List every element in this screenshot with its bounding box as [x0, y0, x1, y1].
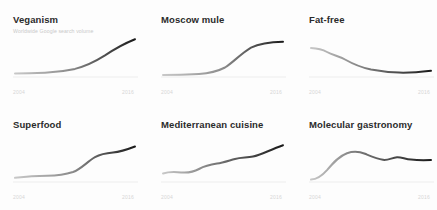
- chart-panel-molecular-gastronomy: Molecular gastronomy 2004 2016: [296, 105, 437, 210]
- axis-tick-end: 2016: [122, 193, 134, 201]
- axis-tick-start: 2004: [309, 88, 321, 96]
- panel-subtitle: Worldwide Google search volume: [13, 28, 138, 35]
- sparkline-mediterranean-cuisine: [161, 141, 286, 193]
- chart-panel-fat-free: Fat-free 2004 2016: [296, 0, 437, 105]
- axis-tick-end: 2016: [418, 193, 430, 201]
- small-multiples-grid: Veganism Worldwide Google search volume …: [0, 0, 437, 209]
- axis-tick-start: 2004: [309, 193, 321, 201]
- panel-title: Fat-free: [309, 14, 434, 25]
- chart-panel-superfood: Superfood 2004 2016: [0, 105, 148, 210]
- panel-title: Moscow mule: [161, 14, 286, 25]
- axis-tick-start: 2004: [161, 88, 173, 96]
- sparkline-fat-free: [309, 36, 434, 88]
- axis-labels: 2004 2016: [309, 88, 434, 97]
- axis-tick-end: 2016: [418, 88, 430, 96]
- axis-labels: 2004 2016: [13, 88, 138, 97]
- trend-line: [311, 151, 431, 179]
- axis-tick-start: 2004: [161, 193, 173, 201]
- trend-line: [163, 42, 283, 75]
- axis-tick-end: 2016: [270, 193, 282, 201]
- axis-labels: 2004 2016: [13, 193, 138, 202]
- trend-line: [163, 145, 283, 173]
- panel-title: Mediterranean cuisine: [161, 119, 286, 130]
- axis-labels: 2004 2016: [161, 88, 286, 97]
- axis-tick-start: 2004: [13, 193, 25, 201]
- trend-line: [311, 48, 431, 73]
- trend-line: [15, 146, 135, 177]
- axis-tick-end: 2016: [122, 88, 134, 96]
- chart-panel-mediterranean-cuisine: Mediterranean cuisine 2004 2016: [148, 105, 296, 210]
- panel-title: Molecular gastronomy: [309, 119, 434, 130]
- sparkline-molecular-gastronomy: [309, 141, 434, 193]
- chart-panel-veganism: Veganism Worldwide Google search volume …: [0, 0, 148, 105]
- trend-line: [15, 39, 135, 73]
- axis-tick-start: 2004: [13, 88, 25, 96]
- axis-tick-end: 2016: [270, 88, 282, 96]
- sparkline-moscow-mule: [161, 36, 286, 88]
- axis-labels: 2004 2016: [309, 193, 434, 202]
- sparkline-veganism: [13, 36, 138, 88]
- sparkline-superfood: [13, 141, 138, 193]
- axis-labels: 2004 2016: [161, 193, 286, 202]
- chart-panel-moscow-mule: Moscow mule 2004 2016: [148, 0, 296, 105]
- panel-title: Veganism: [13, 14, 138, 25]
- panel-title: Superfood: [13, 119, 138, 130]
